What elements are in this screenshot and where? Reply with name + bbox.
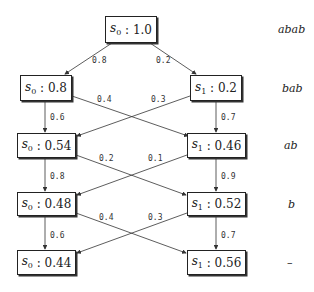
state-name: s1 xyxy=(192,137,203,153)
edge-label: 0.3 xyxy=(151,95,165,104)
edge-label: 0.6 xyxy=(50,113,64,122)
edge-label: 0.3 xyxy=(148,213,162,222)
edge-label: 0.1 xyxy=(148,154,162,163)
node-s1-0.46: s1 : 0.46 xyxy=(187,133,246,158)
edge-label: 0.7 xyxy=(221,231,235,240)
node-s0-0.8: s0 : 0.8 xyxy=(20,75,72,101)
node-value: 0.2 xyxy=(218,81,237,95)
edge-label: 0.4 xyxy=(97,95,111,104)
node-s0-0.48: s0 : 0.48 xyxy=(17,192,76,216)
state-name: s0 xyxy=(22,196,33,212)
node-value: 0.54 xyxy=(45,139,72,153)
node-s0-1.0: s0 : 1.0 xyxy=(105,16,157,43)
edge-label: 0.2 xyxy=(156,56,170,65)
state-name: s0 xyxy=(110,21,121,37)
edge-label: 0.2 xyxy=(99,154,113,163)
state-name: s1 xyxy=(192,196,203,212)
node-value: 0.44 xyxy=(45,256,72,270)
row-label-b: b xyxy=(288,198,295,211)
node-value: 0.56 xyxy=(215,256,242,270)
node-s0-0.54: s0 : 0.54 xyxy=(17,133,76,158)
edge-label: 0.9 xyxy=(221,172,235,181)
row-label-bab: bab xyxy=(282,82,303,95)
edge-label: 0.4 xyxy=(99,213,113,222)
state-name: s1 xyxy=(192,254,203,270)
edge-label: 0.7 xyxy=(221,113,235,122)
row-label-empty: – xyxy=(287,256,293,269)
state-name: s0 xyxy=(22,254,33,270)
edge-label: 0.6 xyxy=(50,231,64,240)
node-value: 0.46 xyxy=(215,139,242,153)
state-name: s0 xyxy=(25,80,36,96)
node-value: 0.48 xyxy=(45,197,72,211)
node-value: 1.0 xyxy=(133,23,152,37)
node-s0-0.44: s0 : 0.44 xyxy=(17,250,76,275)
row-label-abab: abab xyxy=(278,23,305,36)
node-s1-0.56: s1 : 0.56 xyxy=(187,250,246,275)
node-value: 0.8 xyxy=(48,81,67,95)
row-label-ab: ab xyxy=(284,139,298,152)
node-s1-0.2: s1 : 0.2 xyxy=(190,75,242,101)
edge-label: 0.8 xyxy=(50,172,64,181)
node-s1-0.52: s1 : 0.52 xyxy=(187,192,246,216)
edge-label: 0.8 xyxy=(92,56,106,65)
node-value: 0.52 xyxy=(215,197,242,211)
state-name: s1 xyxy=(195,80,206,96)
state-name: s0 xyxy=(22,137,33,153)
